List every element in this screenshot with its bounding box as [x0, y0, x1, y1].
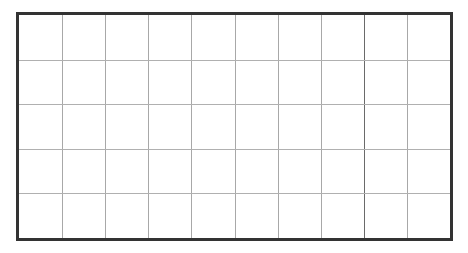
grid-horizontal-line	[19, 60, 450, 61]
grid-vertical-line	[105, 15, 106, 238]
grid-vertical-line	[235, 15, 236, 238]
grid-vertical-line	[191, 15, 192, 238]
grid-vertical-line	[62, 15, 63, 238]
grid-vertical-line	[148, 15, 149, 238]
grid-vertical-line	[321, 15, 322, 238]
grid-vertical-line	[364, 15, 365, 238]
grid-horizontal-line	[19, 149, 450, 150]
grid-horizontal-line	[19, 104, 450, 105]
grid-diagram	[16, 12, 453, 241]
grid-horizontal-line	[19, 193, 450, 194]
grid-vertical-line	[278, 15, 279, 238]
grid-vertical-line	[407, 15, 408, 238]
